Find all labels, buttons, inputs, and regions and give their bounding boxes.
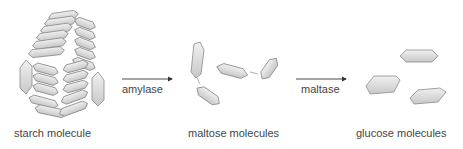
glucose-molecules-label: glucose molecules bbox=[356, 127, 447, 139]
glucose-molecules-illustration bbox=[366, 50, 446, 104]
starch-molecule-label: starch molecule bbox=[14, 127, 91, 139]
maltose-molecules-label: maltose molecules bbox=[188, 127, 279, 139]
maltose-molecules-illustration bbox=[191, 42, 281, 108]
amylase-label: amylase bbox=[122, 83, 163, 95]
starch-molecule-illustration bbox=[20, 10, 104, 119]
maltase-label: maltase bbox=[301, 83, 340, 95]
